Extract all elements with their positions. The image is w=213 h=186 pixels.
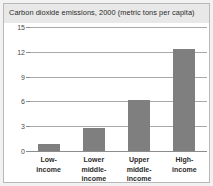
axis-baseline <box>26 151 207 152</box>
bar <box>83 128 105 151</box>
x-tick-label-line: middle- <box>71 165 116 175</box>
y-tick-label: 12 <box>7 48 25 55</box>
bar <box>38 144 60 151</box>
y-axis: 03691215 <box>4 27 25 151</box>
y-tick-label: 6 <box>7 98 25 105</box>
x-tick-label-line: income <box>162 165 207 175</box>
x-tick-label: Uppermiddle-income <box>117 155 162 183</box>
x-tick-label: Lowermiddle-income <box>71 155 116 183</box>
chart-figure: Carbon dioxide emissions, 2000 (metric t… <box>3 3 210 183</box>
y-tick-mark <box>26 126 30 127</box>
y-tick-mark <box>26 151 30 152</box>
plot-wrapper: 03691215 Low-incomeLowermiddle-incomeUpp… <box>4 23 209 183</box>
chart-title: Carbon dioxide emissions, 2000 (metric t… <box>9 8 195 17</box>
y-tick-label: 9 <box>7 73 25 80</box>
x-tick-label-line: income <box>117 174 162 183</box>
x-tick-label-line: Upper <box>117 155 162 165</box>
x-tick-label-line: income <box>71 174 116 183</box>
bar <box>173 49 195 151</box>
y-tick-mark <box>26 52 30 53</box>
y-tick-label: 15 <box>7 24 25 31</box>
x-tick-label: High-income <box>162 155 207 174</box>
bar <box>128 100 150 151</box>
gridline <box>26 27 207 28</box>
x-tick-label-line: income <box>26 165 71 175</box>
plot-area <box>26 27 207 151</box>
x-tick-label-line: middle- <box>117 165 162 175</box>
x-tick-label-line: Lower <box>71 155 116 165</box>
y-tick-mark <box>26 27 30 28</box>
y-tick-label: 0 <box>7 148 25 155</box>
x-tick-label-line: High- <box>162 155 207 165</box>
x-axis-labels: Low-incomeLowermiddle-incomeUppermiddle-… <box>26 155 207 183</box>
y-tick-mark <box>26 77 30 78</box>
y-tick-mark <box>26 101 30 102</box>
y-tick-label: 3 <box>7 123 25 130</box>
x-tick-label: Low-income <box>26 155 71 174</box>
x-tick-label-line: Low- <box>26 155 71 165</box>
